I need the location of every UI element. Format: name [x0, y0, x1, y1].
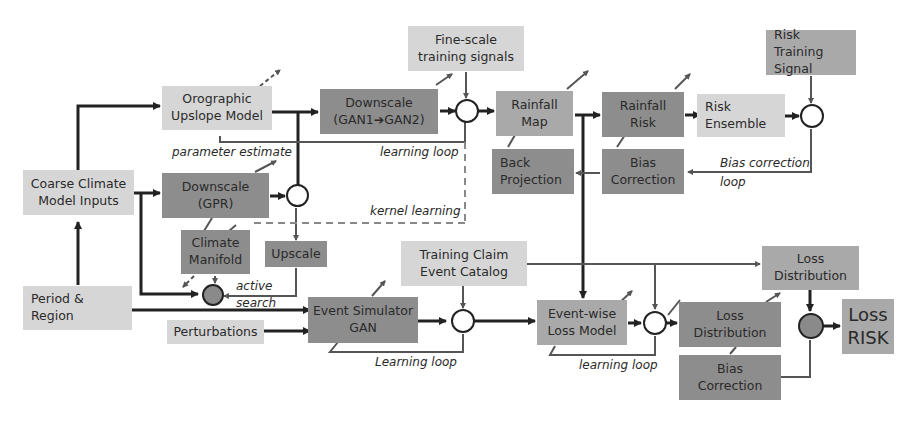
bias-correction-loop-label-1: Bias correction	[720, 156, 810, 170]
event-simulator-gan-box: Event Simulator GAN	[308, 297, 418, 343]
back-projection-box: Back Projection	[492, 149, 574, 194]
kernel-learning-label: kernel learning	[370, 204, 461, 218]
fine-scale-training-signals-box: Fine-scale training signals	[408, 26, 524, 71]
risk-sum-node	[800, 104, 824, 128]
event-sum-node	[451, 309, 475, 333]
coarse-climate-model-inputs-box: Coarse Climate Model Inputs	[23, 170, 134, 215]
learning-loop-loss-label: learning loop	[579, 358, 658, 372]
upscale-box: Upscale	[265, 241, 327, 267]
learning-loop-event-label: Learning loop	[375, 355, 457, 369]
active-search-label-2: search	[236, 296, 276, 310]
orographic-upslope-model-box: Orographic Upslope Model	[162, 86, 272, 130]
active-search-label-1: active	[236, 279, 272, 293]
learning-loop-top-label: learning loop	[380, 145, 459, 159]
bias-correction-loop-label-2: loop	[720, 175, 746, 189]
event-wise-loss-model-box: Event-wise Loss Model	[537, 300, 627, 345]
rainfall-risk-box: Rainfall Risk	[602, 92, 684, 137]
loss-distribution-box: Loss Distribution	[679, 302, 781, 347]
active-search-node	[202, 284, 224, 306]
training-claim-event-catalog-box: Training Claim Event Catalog	[401, 241, 527, 286]
climate-manifold-box: Climate Manifold	[181, 230, 250, 274]
loss-distribution-top-box: Loss Distribution	[762, 246, 859, 290]
bias-correction-bottom-box: Bias Correction	[679, 355, 781, 400]
perturbations-box: Perturbations	[167, 320, 264, 344]
parameter-estimate-label: parameter estimate	[172, 145, 292, 159]
loss-model-sum-node	[643, 311, 667, 335]
risk-ensemble-box: Risk Ensemble	[697, 94, 785, 137]
downscale-gpr-box: Downscale (GPR)	[162, 173, 269, 218]
gpr-sum-node	[286, 184, 309, 207]
risk-training-signal-box: Risk Training Signal	[766, 30, 856, 75]
loss-risk-sum-node	[798, 313, 824, 339]
rainfall-map-box: Rainfall Map	[496, 91, 573, 136]
downscale-gan-box: Downscale (GAN1➔GAN2)	[320, 89, 438, 134]
period-region-box: Period & Region	[23, 286, 132, 330]
bias-correction-top-box: Bias Correction	[602, 149, 684, 194]
loss-risk-box: Loss RISK	[842, 299, 894, 354]
gan-sum-node	[455, 99, 479, 123]
